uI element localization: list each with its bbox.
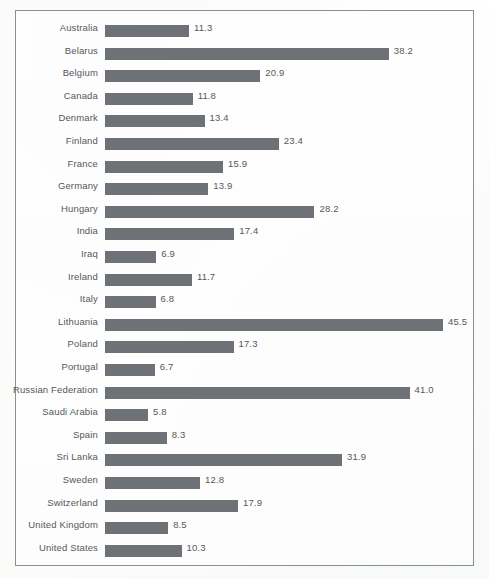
bar-row: Russian Federation41.0 xyxy=(0,387,489,399)
bar-value-label: 20.9 xyxy=(265,67,284,79)
bar xyxy=(105,296,156,308)
category-label: Denmark xyxy=(58,112,98,124)
category-label: Finland xyxy=(66,135,98,147)
bar xyxy=(105,115,205,127)
bar-chart-plot-area: Australia11.3Belarus38.2Belgium20.9Canad… xyxy=(0,0,489,579)
bar xyxy=(105,500,238,512)
category-label: Iraq xyxy=(81,248,98,260)
bar-value-label: 6.7 xyxy=(160,361,174,373)
category-label: Spain xyxy=(73,429,98,441)
bar-value-label: 11.7 xyxy=(197,271,215,283)
category-label: Lithuania xyxy=(58,316,98,328)
bar-row: Finland23.4 xyxy=(0,138,489,150)
bar xyxy=(105,183,208,195)
category-label: India xyxy=(77,225,98,237)
bar-row: Sweden12.8 xyxy=(0,477,489,489)
bar xyxy=(105,161,223,173)
bar-row: Switzerland17.9 xyxy=(0,500,489,512)
category-label: Portugal xyxy=(61,361,98,373)
category-label: Ireland xyxy=(68,271,98,283)
bar-value-label: 41.0 xyxy=(415,384,434,396)
bar xyxy=(105,25,189,37)
bar xyxy=(105,251,156,263)
category-label: Sri Lanka xyxy=(57,451,98,463)
bar xyxy=(105,409,148,421)
bar xyxy=(105,138,279,150)
bar-value-label: 8.5 xyxy=(173,519,187,531)
category-label: Canada xyxy=(64,90,98,102)
bar-row: Denmark13.4 xyxy=(0,115,489,127)
bar-value-label: 17.3 xyxy=(239,338,258,350)
bar xyxy=(105,206,314,218)
bar-value-label: 11.3 xyxy=(194,22,212,34)
bar xyxy=(105,387,410,399)
category-label: Belgium xyxy=(63,67,98,79)
bar xyxy=(105,522,168,534)
chart-page: Australia11.3Belarus38.2Belgium20.9Canad… xyxy=(0,0,489,579)
bar-value-label: 11.8 xyxy=(198,90,216,102)
bar xyxy=(105,319,443,331)
bar xyxy=(105,364,155,376)
bar-row: Iraq6.9 xyxy=(0,251,489,263)
bar-value-label: 10.3 xyxy=(187,542,206,554)
bar-value-label: 8.3 xyxy=(172,429,186,441)
category-label: Russian Federation xyxy=(13,384,98,396)
category-label: France xyxy=(68,158,98,170)
bar xyxy=(105,454,342,466)
bar-value-label: 31.9 xyxy=(347,451,366,463)
bar xyxy=(105,70,260,82)
bar-row: Belgium20.9 xyxy=(0,70,489,82)
category-label: Switzerland xyxy=(47,497,98,509)
bar-row: Ireland11.7 xyxy=(0,274,489,286)
bar-value-label: 17.9 xyxy=(243,497,262,509)
bar-row: Belarus38.2 xyxy=(0,48,489,60)
bar-value-label: 23.4 xyxy=(284,135,303,147)
bar-row: Italy6.8 xyxy=(0,296,489,308)
category-label: Australia xyxy=(60,22,98,34)
bar-row: Saudi Arabia5.8 xyxy=(0,409,489,421)
bar-value-label: 45.5 xyxy=(448,316,467,328)
bar-row: France15.9 xyxy=(0,161,489,173)
bar xyxy=(105,274,192,286)
bar-row: Australia11.3 xyxy=(0,25,489,37)
category-label: Sweden xyxy=(63,474,98,486)
category-label: Hungary xyxy=(61,203,98,215)
bar xyxy=(105,48,389,60)
category-label: Saudi Arabia xyxy=(42,406,98,418)
category-label: Poland xyxy=(68,338,98,350)
bar-row: Portugal6.7 xyxy=(0,364,489,376)
category-label: Germany xyxy=(58,180,98,192)
category-label: United States xyxy=(39,542,98,554)
bar-row: India17.4 xyxy=(0,228,489,240)
bar xyxy=(105,93,193,105)
bar-value-label: 38.2 xyxy=(394,45,413,57)
bar-row: Canada11.8 xyxy=(0,93,489,105)
bar-row: Sri Lanka31.9 xyxy=(0,454,489,466)
bar-value-label: 13.4 xyxy=(210,112,229,124)
bar-value-label: 12.8 xyxy=(205,474,224,486)
bar-value-label: 28.2 xyxy=(319,203,338,215)
bar-value-label: 6.8 xyxy=(161,293,175,305)
bar-row: Hungary28.2 xyxy=(0,206,489,218)
category-label: United Kingdom xyxy=(28,519,98,531)
bar-row: Spain8.3 xyxy=(0,432,489,444)
bar xyxy=(105,545,182,557)
bar xyxy=(105,228,234,240)
category-label: Belarus xyxy=(65,45,98,57)
category-label: Italy xyxy=(80,293,98,305)
bar-value-label: 13.9 xyxy=(213,180,232,192)
bar-value-label: 17.4 xyxy=(239,225,258,237)
bar xyxy=(105,477,200,489)
bar xyxy=(105,432,167,444)
bar-row: United Kingdom8.5 xyxy=(0,522,489,534)
bar-row: Lithuania45.5 xyxy=(0,319,489,331)
bar-value-label: 5.8 xyxy=(153,406,167,418)
bar-value-label: 15.9 xyxy=(228,158,247,170)
bar-value-label: 6.9 xyxy=(161,248,175,260)
bar-row: United States10.3 xyxy=(0,545,489,557)
bar xyxy=(105,341,234,353)
bar-row: Poland17.3 xyxy=(0,341,489,353)
bar-row: Germany13.9 xyxy=(0,183,489,195)
